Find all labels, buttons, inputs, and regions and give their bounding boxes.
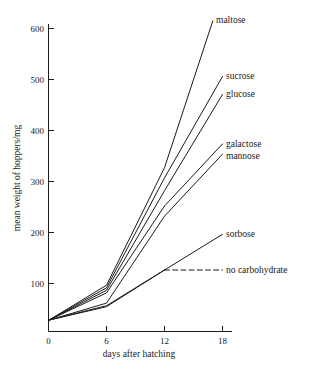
series-label-mannose: mannose <box>226 151 260 161</box>
series-label-sorbose: sorbose <box>226 229 255 239</box>
chart-plot-area: 600 500 400 300 200 100 0 6 12 18 days a… <box>0 0 312 386</box>
y-tick-label-100: 100 <box>31 279 45 289</box>
x-tick-label-6: 6 <box>104 336 109 346</box>
x-tick-label-12: 12 <box>160 336 169 346</box>
x-axis-title: days after hatching <box>103 349 176 359</box>
y-tick-label-400: 400 <box>31 126 45 136</box>
y-axis-ticks <box>49 29 55 284</box>
series-label-glucose: glucose <box>226 89 255 99</box>
y-tick-label-300: 300 <box>31 177 45 187</box>
y-tick-label-500: 500 <box>31 75 45 85</box>
series-label-galactose: galactose <box>226 139 261 149</box>
series-label-no-carbohydrate: no carbohydrate <box>226 265 287 275</box>
series-line-sucrose <box>49 77 223 321</box>
series-line-maltose <box>49 21 213 320</box>
x-tick-label-0: 0 <box>46 336 51 346</box>
x-tick-label-18: 18 <box>218 336 228 346</box>
y-tick-label-200: 200 <box>31 228 45 238</box>
series-label-sucrose: sucrose <box>226 71 255 81</box>
series-line-glucose <box>49 94 223 320</box>
series-line-no-carbohydrate-solid <box>49 270 165 320</box>
line-chart-figure: 600 500 400 300 200 100 0 6 12 18 days a… <box>0 0 312 386</box>
x-axis-ticks <box>49 326 223 332</box>
series-line-mannose <box>49 154 223 320</box>
y-axis-title: mean weight of hoppers/mg <box>12 125 22 232</box>
series-lines <box>49 21 223 320</box>
series-line-sorbose <box>49 234 223 320</box>
series-label-maltose: maltose <box>216 15 246 25</box>
y-tick-label-600: 600 <box>31 24 45 34</box>
